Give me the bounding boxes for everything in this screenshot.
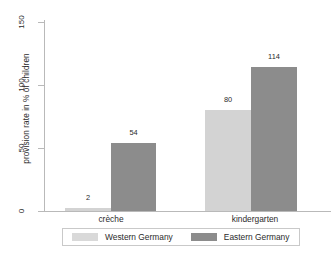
y-axis-title: provision rate in % of children [22,34,31,184]
legend-swatch-icon-western-germany [72,233,98,241]
bar-kindergarten-western-germany [205,110,251,211]
bar-value-kindergarten-eastern-germany: 114 [251,53,297,61]
plot-area: 2 54 80 114 [45,20,331,211]
legend-label-western-germany: Western Germany [105,233,173,242]
bar-kindergarten-eastern-germany [251,67,297,211]
y-tick-mark-150 [38,22,44,23]
bar-value-kindergarten-western-germany: 80 [205,96,251,104]
x-category-label-kindergarten: kindergarten [205,214,305,224]
y-tick-label-50: 50 [18,135,26,161]
legend-entry-western-germany: Western Germany [72,229,173,245]
bar-chart: provision rate in % of children 150 100 … [0,0,335,259]
bar-creche-eastern-germany [111,143,156,211]
x-category-label-creche: crèche [65,214,157,224]
x-axis-line [44,211,331,212]
y-tick-mark-100 [38,85,44,86]
legend-swatch-icon-eastern-germany [191,233,217,241]
y-tick-label-100: 100 [18,72,26,98]
bar-value-creche-western-germany: 2 [65,194,111,202]
legend-entry-eastern-germany: Eastern Germany [191,229,290,245]
y-tick-label-0: 0 [18,198,26,224]
legend-label-eastern-germany: Eastern Germany [224,233,290,242]
legend: Western Germany Eastern Germany [62,228,300,246]
y-tick-mark-50 [38,148,44,149]
bar-value-creche-eastern-germany: 54 [111,129,156,137]
y-tick-label-150: 150 [18,9,26,35]
